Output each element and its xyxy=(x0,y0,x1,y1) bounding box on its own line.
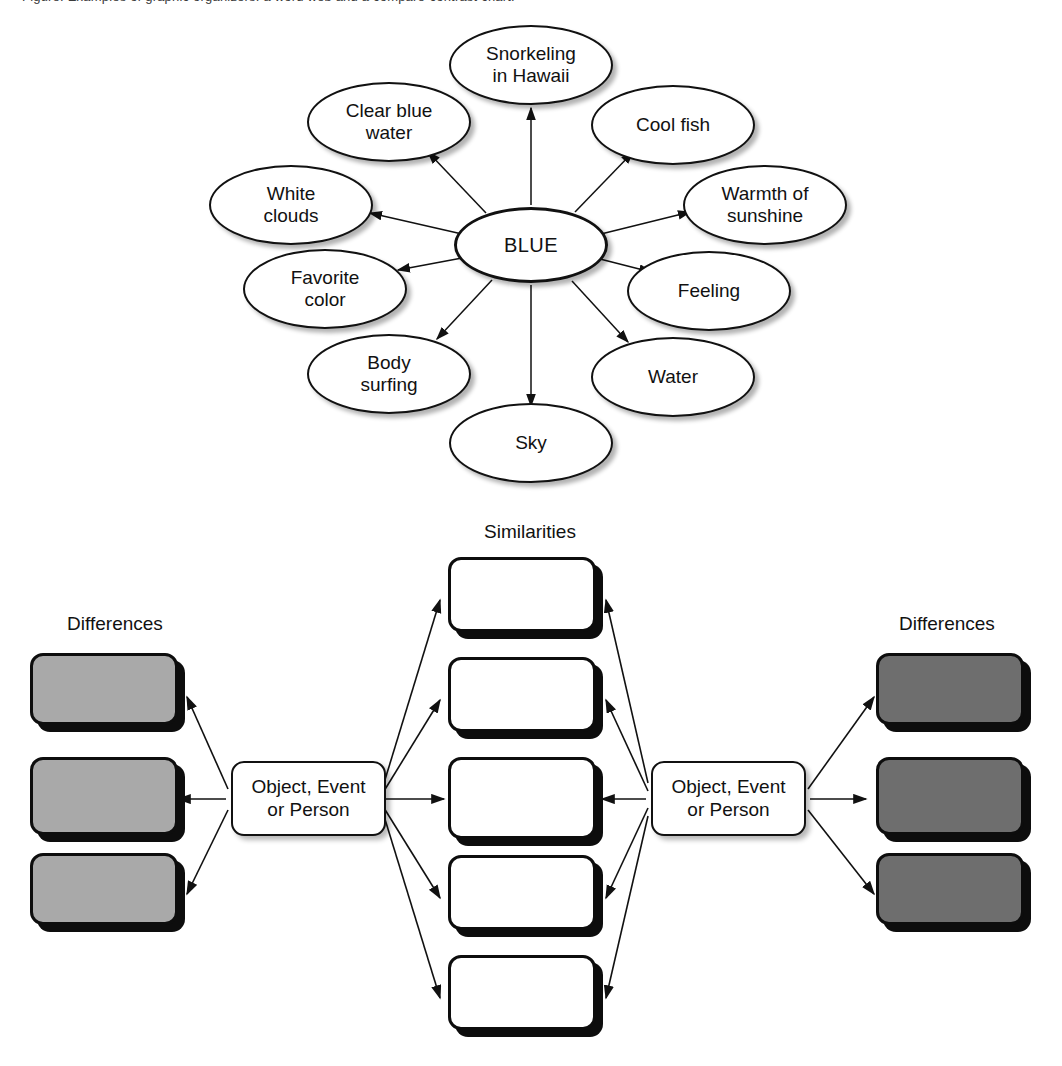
web-node-line2: sunshine xyxy=(714,205,817,227)
web-node-line1: Favorite xyxy=(283,267,368,289)
web-node-line2: in Hawaii xyxy=(478,65,584,87)
web-node-line1: Sky xyxy=(507,432,555,454)
web-node-line1: Warmth of xyxy=(714,183,817,205)
difference-box-right[interactable] xyxy=(876,653,1024,725)
web-node-label: Clear blue water xyxy=(330,100,449,143)
web-node-white-clouds[interactable]: White clouds xyxy=(209,165,373,245)
subject-node-right[interactable]: Object, Event or Person xyxy=(651,761,806,836)
web-node-line1: Snorkeling xyxy=(478,43,584,65)
web-node-center-blue[interactable]: BLUE xyxy=(454,207,608,283)
difference-box-left[interactable] xyxy=(30,653,178,725)
subject-node-label: Object, Event or Person xyxy=(239,776,377,820)
subject-line2: or Person xyxy=(245,799,371,821)
web-node-label: Warmth of sunshine xyxy=(706,183,825,226)
figure-caption-clipped: Figure. Examples of graphic organizers: … xyxy=(0,0,1062,4)
diagram-page: Figure. Examples of graphic organizers: … xyxy=(0,0,1062,1066)
subject-line2: or Person xyxy=(665,799,791,821)
web-node-clear-blue-water[interactable]: Clear blue water xyxy=(307,82,471,162)
web-node-favorite-color[interactable]: Favorite color xyxy=(243,249,407,329)
web-node-warmth-of-sunshine[interactable]: Warmth of sunshine xyxy=(683,165,847,245)
web-node-label: Feeling xyxy=(662,280,756,302)
similarity-box[interactable] xyxy=(448,955,596,1030)
web-node-cool-fish[interactable]: Cool fish xyxy=(591,85,755,165)
web-node-line1: Feeling xyxy=(670,280,748,302)
web-node-label: White clouds xyxy=(248,183,335,226)
web-node-sky[interactable]: Sky xyxy=(449,403,613,483)
figure-caption-text: Figure. Examples of graphic organizers: … xyxy=(0,0,1062,4)
similarity-box[interactable] xyxy=(448,757,596,839)
web-node-label: Favorite color xyxy=(275,267,376,310)
web-node-line1: Clear blue xyxy=(338,100,441,122)
web-node-line1: Body xyxy=(352,352,425,374)
similarity-box[interactable] xyxy=(448,657,596,732)
subject-node-left[interactable]: Object, Event or Person xyxy=(231,761,386,836)
web-node-label: Body surfing xyxy=(344,352,433,395)
web-node-line1: Water xyxy=(640,366,706,388)
web-node-snorkeling[interactable]: Snorkeling in Hawaii xyxy=(449,25,613,105)
web-node-water[interactable]: Water xyxy=(591,337,755,417)
heading-differences-right: Differences xyxy=(832,613,1062,635)
subject-line1: Object, Event xyxy=(665,776,791,798)
heading-differences-left: Differences xyxy=(0,613,230,635)
similarity-box[interactable] xyxy=(448,855,596,930)
web-node-feeling[interactable]: Feeling xyxy=(627,251,791,331)
web-node-line2: color xyxy=(283,289,368,311)
web-node-line2: water xyxy=(338,122,441,144)
web-node-line2: clouds xyxy=(256,205,327,227)
web-node-body-surfing[interactable]: Body surfing xyxy=(307,334,471,414)
subject-line1: Object, Event xyxy=(245,776,371,798)
similarity-box[interactable] xyxy=(448,557,596,632)
web-node-label: Snorkeling in Hawaii xyxy=(470,43,592,86)
web-node-line1: Cool fish xyxy=(628,114,718,136)
difference-box-right[interactable] xyxy=(876,853,1024,925)
web-node-label: Sky xyxy=(499,432,563,454)
web-node-label: Cool fish xyxy=(620,114,726,136)
web-node-line1: White xyxy=(256,183,327,205)
web-center-label: BLUE xyxy=(496,234,566,257)
heading-similarities: Similarities xyxy=(410,521,650,543)
difference-box-left[interactable] xyxy=(30,853,178,925)
difference-box-left[interactable] xyxy=(30,757,178,835)
web-node-label: Water xyxy=(632,366,714,388)
difference-box-right[interactable] xyxy=(876,757,1024,835)
subject-node-label: Object, Event or Person xyxy=(659,776,797,820)
web-node-line2: surfing xyxy=(352,374,425,396)
